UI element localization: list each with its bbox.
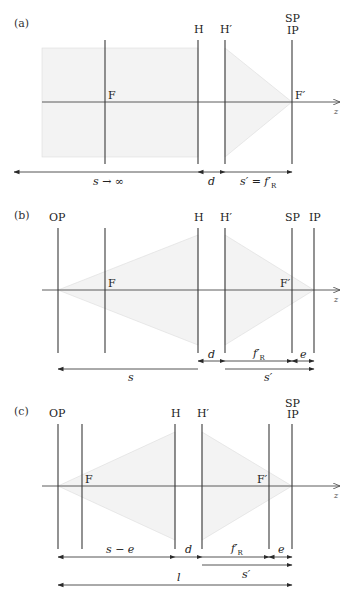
dim-label-s-infinity: s → ∞ bbox=[93, 175, 124, 188]
label-H: H bbox=[171, 407, 181, 420]
dim-label-d: d bbox=[208, 175, 215, 188]
label-IP: IP bbox=[287, 24, 299, 37]
panel-label-c: (c) bbox=[14, 405, 29, 418]
label-F: F bbox=[85, 473, 93, 486]
incoming-parallel-beam bbox=[42, 48, 198, 157]
label-F: F bbox=[108, 89, 116, 102]
panel-a: (a) z F H H′ SP IP F′ s → ∞ d s′ = f′R bbox=[14, 12, 340, 190]
label-F-prime: F′ bbox=[257, 473, 268, 486]
label-H-prime: H′ bbox=[220, 211, 233, 224]
panel-label-a: (a) bbox=[14, 17, 29, 30]
dim-label-s-minus-e: s − e bbox=[106, 543, 135, 556]
label-OP: OP bbox=[49, 211, 66, 224]
dim-label-e: e bbox=[278, 543, 285, 556]
dim-label-s: s bbox=[128, 371, 134, 384]
label-H: H bbox=[194, 211, 204, 224]
dim-label-l: l bbox=[177, 571, 181, 584]
label-F: F bbox=[108, 277, 116, 290]
label-IP: IP bbox=[309, 211, 321, 224]
axis-label-z: z bbox=[333, 295, 339, 304]
dim-label-fR: f′R bbox=[252, 347, 266, 362]
optical-diagram: (a) z F H H′ SP IP F′ s → ∞ d s′ = f′R (… bbox=[0, 0, 354, 597]
label-H-prime: H′ bbox=[220, 23, 233, 36]
label-SP: SP bbox=[285, 211, 301, 224]
panel-label-b: (b) bbox=[14, 209, 30, 222]
axis-label-z: z bbox=[333, 491, 339, 500]
dim-label-d: d bbox=[185, 543, 192, 556]
converging-beam-cone bbox=[225, 48, 292, 157]
label-F-prime: F′ bbox=[295, 89, 306, 102]
dim-label-fR: f′R bbox=[230, 542, 244, 557]
dim-label-s-prime: s′ bbox=[242, 568, 251, 581]
panel-b: (b) z OP F H H′ SP IP F′ d f′R e s s′ bbox=[14, 209, 340, 384]
label-IP: IP bbox=[287, 408, 299, 421]
dim-label-s-prime-fR: s′ = f′R bbox=[240, 175, 277, 190]
label-H-prime: H′ bbox=[197, 407, 210, 420]
panel-c: (c) z OP F H H′ F′ SP IP s − e d f′R e s… bbox=[14, 397, 340, 585]
label-H: H bbox=[194, 23, 204, 36]
dim-label-d: d bbox=[208, 348, 215, 361]
dim-label-s-prime: s′ bbox=[264, 371, 273, 384]
dim-label-e: e bbox=[300, 348, 307, 361]
axis-label-z: z bbox=[333, 107, 339, 116]
label-OP: OP bbox=[49, 407, 66, 420]
label-F-prime: F′ bbox=[280, 277, 291, 290]
